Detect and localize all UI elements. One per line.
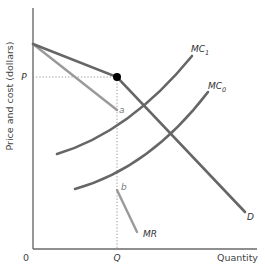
mc1-label: MC1: [191, 44, 209, 57]
mr-label: MR: [143, 229, 157, 239]
point-b-label: b: [121, 182, 127, 192]
price-label: P: [21, 72, 27, 82]
origin-label: 0: [23, 252, 29, 263]
point-a-label: a: [119, 105, 125, 115]
x-axis-label: Quantity: [217, 252, 258, 263]
quantity-label: Q: [113, 253, 120, 263]
mr-lower-segment: [117, 190, 137, 232]
mc0-label: MC0: [208, 81, 226, 94]
kink-point-dot: [113, 73, 121, 81]
kinked-demand-diagram: Price and cost (dollars) Quantity 0 P Q …: [0, 0, 265, 266]
y-axis-label: Price and cost (dollars): [4, 41, 15, 150]
demand-label: D: [247, 212, 254, 222]
